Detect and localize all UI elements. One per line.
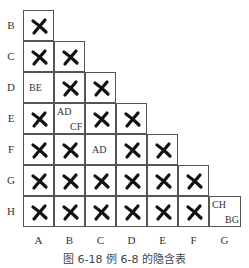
cell-g-c	[85, 165, 116, 196]
implied-pair: AD	[57, 107, 71, 117]
cell-c-b	[54, 41, 85, 72]
row-label-c: C	[4, 41, 18, 72]
cell-g-a	[23, 165, 54, 196]
cross-mark-icon	[55, 166, 86, 197]
cell-h-g: CH BG	[209, 196, 241, 227]
col-label-d: D	[116, 234, 147, 246]
cross-mark-icon	[179, 197, 210, 228]
implied-pair: AD	[92, 145, 106, 155]
cross-mark-icon	[55, 197, 86, 228]
cross-mark-icon	[86, 73, 117, 104]
cross-mark-icon	[24, 42, 55, 73]
col-label-b: B	[54, 234, 85, 246]
row-label-h: H	[4, 196, 18, 227]
cell-f-e	[147, 134, 178, 165]
cross-mark-icon	[86, 166, 117, 197]
cell-h-b	[54, 196, 85, 227]
col-label-c: C	[85, 234, 116, 246]
cell-d-a: BE	[23, 72, 54, 103]
cell-e-a	[23, 103, 54, 134]
cross-mark-icon	[24, 104, 55, 135]
cross-mark-icon	[55, 135, 86, 166]
cell-g-d	[116, 165, 147, 196]
cross-mark-icon	[24, 135, 55, 166]
cross-mark-icon	[55, 42, 86, 73]
cross-mark-icon	[86, 197, 117, 228]
cell-h-e	[147, 196, 178, 227]
col-label-f: F	[178, 234, 209, 246]
cell-g-e	[147, 165, 178, 196]
cell-e-b: AD CF	[54, 103, 85, 134]
row-label-d: D	[4, 72, 18, 103]
cell-h-c	[85, 196, 116, 227]
row-label-b: B	[4, 10, 18, 41]
cross-mark-icon	[55, 73, 86, 104]
cross-mark-icon	[117, 197, 148, 228]
cell-d-c	[85, 72, 116, 103]
cell-e-d	[116, 103, 147, 134]
cell-g-f	[178, 165, 209, 196]
row-label-f: F	[4, 134, 18, 165]
cross-mark-icon	[117, 135, 148, 166]
implied-pair: CH	[212, 200, 226, 210]
cross-mark-icon	[86, 104, 117, 135]
cell-h-d	[116, 196, 147, 227]
cell-b-a	[23, 10, 54, 41]
cell-e-c	[85, 103, 116, 134]
row-label-g: G	[4, 165, 18, 196]
row-label-e: E	[4, 103, 18, 134]
col-label-e: E	[147, 234, 178, 246]
cell-h-f	[178, 196, 209, 227]
cross-mark-icon	[179, 166, 210, 197]
implied-pair: BG	[225, 215, 239, 225]
cell-f-b	[54, 134, 85, 165]
figure-caption: 图 6-18 例 6-8 的隐含表	[0, 250, 249, 266]
cell-f-c: AD	[85, 134, 116, 165]
cross-mark-icon	[148, 197, 179, 228]
cell-f-a	[23, 134, 54, 165]
implied-pair: BE	[29, 83, 42, 93]
col-label-g: G	[209, 234, 240, 246]
cell-g-b	[54, 165, 85, 196]
cell-f-d	[116, 134, 147, 165]
cross-mark-icon	[117, 104, 148, 135]
cross-mark-icon	[117, 166, 148, 197]
cross-mark-icon	[24, 166, 55, 197]
cross-mark-icon	[148, 166, 179, 197]
cross-mark-icon	[24, 11, 55, 42]
col-label-a: A	[23, 234, 54, 246]
cell-d-b	[54, 72, 85, 103]
implied-pair: CF	[70, 122, 82, 132]
cell-h-a	[23, 196, 54, 227]
cross-mark-icon	[24, 197, 55, 228]
cell-c-a	[23, 41, 54, 72]
cross-mark-icon	[148, 135, 179, 166]
